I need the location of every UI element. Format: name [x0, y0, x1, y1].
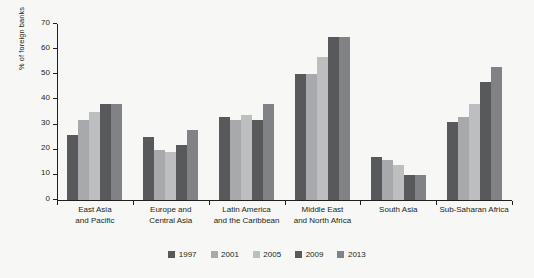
category-label: Latin Americaand the Caribbean [209, 205, 285, 226]
bar [447, 122, 458, 200]
bar-group [133, 24, 209, 200]
bar-group [57, 24, 133, 200]
plot-area: 010203040506070 [57, 24, 512, 201]
legend-swatch-icon [168, 251, 175, 258]
bar-group [209, 24, 285, 200]
y-tick-label: 10 [41, 168, 50, 177]
category-label: Europe andCentral Asia [133, 205, 209, 226]
bar [219, 117, 230, 200]
legend-item[interactable]: 2001 [211, 250, 239, 259]
bar-group [285, 24, 361, 200]
bar [230, 120, 241, 200]
bar [480, 82, 491, 200]
bar [317, 57, 328, 200]
legend-swatch-icon [253, 251, 260, 258]
bar [89, 112, 100, 200]
bar [263, 104, 274, 200]
bar [78, 120, 89, 200]
y-tick-label: 30 [41, 118, 50, 127]
bar [306, 74, 317, 200]
bar [187, 130, 198, 200]
category-label-line: Sub-Saharan Africa [436, 205, 512, 216]
legend-item[interactable]: 2013 [337, 250, 365, 259]
legend-swatch-icon [337, 251, 344, 258]
bar [100, 104, 111, 200]
bar [371, 157, 382, 200]
bar [328, 37, 339, 200]
bar [382, 160, 393, 200]
category-label: Middle Eastand North Africa [285, 205, 361, 226]
bar [393, 165, 404, 200]
category-labels: East Asiaand PacificEurope andCentral As… [57, 205, 512, 235]
chart-figure: % of foreign banks 010203040506070 East … [0, 0, 534, 278]
bar-group [436, 24, 512, 200]
legend-item[interactable]: 1997 [168, 250, 196, 259]
bar [143, 137, 154, 200]
category-label-line: and the Caribbean [209, 216, 285, 227]
category-label-line: Latin America [209, 205, 285, 216]
legend-label: 2005 [263, 250, 281, 259]
bar [252, 120, 263, 200]
legend-label: 2009 [306, 250, 324, 259]
category-label-line: Europe and [133, 205, 209, 216]
category-label-line: South Asia [360, 205, 436, 216]
bar [241, 115, 252, 200]
bar [176, 145, 187, 200]
legend-label: 2013 [348, 250, 366, 259]
bar [458, 117, 469, 200]
y-tick-label: 70 [41, 18, 50, 27]
y-tick-label: 20 [41, 143, 50, 152]
bar [339, 37, 350, 200]
y-tick-label: 0 [46, 194, 50, 203]
category-label-line: East Asia [57, 205, 133, 216]
bar [469, 104, 480, 200]
category-label-line: and North Africa [285, 216, 361, 227]
title-remnant [0, 0, 534, 7]
y-tick-label: 60 [41, 43, 50, 52]
bar [404, 175, 415, 200]
bar [67, 135, 78, 200]
y-tick-label: 50 [41, 68, 50, 77]
category-label-line: Central Asia [133, 216, 209, 227]
category-label: Sub-Saharan Africa [436, 205, 512, 216]
bar [111, 104, 122, 200]
bar [165, 152, 176, 200]
legend-label: 1997 [179, 250, 197, 259]
category-label: South Asia [360, 205, 436, 216]
x-tick [512, 201, 513, 205]
bar [154, 150, 165, 200]
category-label-line: Middle East [285, 205, 361, 216]
chart-legend: 19972001200520092013 [0, 250, 534, 259]
bar [491, 67, 502, 200]
legend-item[interactable]: 2005 [253, 250, 281, 259]
legend-item[interactable]: 2009 [295, 250, 323, 259]
y-axis-label: % of foreign banks [17, 0, 26, 70]
legend-label: 2001 [221, 250, 239, 259]
category-label: East Asiaand Pacific [57, 205, 133, 226]
bar [415, 175, 426, 200]
y-tick-label: 40 [41, 93, 50, 102]
bar [295, 74, 306, 200]
bar-group [360, 24, 436, 200]
legend-swatch-icon [211, 251, 218, 258]
legend-swatch-icon [295, 251, 302, 258]
category-label-line: and Pacific [57, 216, 133, 227]
